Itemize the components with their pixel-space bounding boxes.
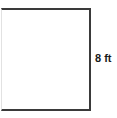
- side-length-label: 8 ft: [95, 51, 117, 66]
- square-shape: [1, 8, 91, 111]
- geometry-figure-canvas: 8 ft: [0, 0, 117, 118]
